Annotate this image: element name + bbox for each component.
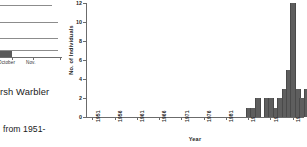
x-tick [226,117,227,120]
plot-area: 024681012 195119561961196619711976198119… [86,3,304,117]
x-tick-label: 1971 [184,110,190,122]
y-tick-label: 10 [70,19,82,25]
fragment-xtick-label-november: Nov. [26,60,36,65]
y-tick [83,98,86,99]
x-tick [248,117,249,120]
fragment-gridline [0,38,58,39]
fragment-body-text: from 1951- [3,124,46,134]
scanned-page: October Nov. rsh Warbler from 1951- No. … [0,0,307,147]
x-tick-label: 1976 [206,110,212,122]
x-tick-label: 1951 [95,110,101,122]
fragment-xtick-label-october: October [0,60,15,65]
y-tick [83,79,86,80]
left-document-fragment: October Nov. rsh Warbler from 1951- [0,0,66,147]
y-tick-label: 4 [70,76,82,82]
y-tick-label: 2 [70,95,82,101]
y-tick [83,117,86,118]
y-tick [83,60,86,61]
y-tick [83,22,86,23]
x-tick [137,117,138,120]
x-tick [270,117,271,120]
y-axis-line [86,3,87,118]
x-tick [92,117,93,120]
fragment-x-axis [0,57,62,58]
x-tick-label: 1981 [228,110,234,122]
y-tick-label: 6 [70,57,82,63]
fragment-gridline [0,5,52,6]
x-tick [204,117,205,120]
histogram-chart: No. of Individuals 024681012 19511956196… [66,0,307,147]
y-tick-label: 12 [70,0,82,6]
fragment-gridline [0,22,58,23]
x-tick-label: 1956 [117,110,123,122]
x-tick [181,117,182,120]
y-tick [83,41,86,42]
y-tick [83,3,86,4]
x-tick [293,117,294,120]
bar [304,89,307,118]
x-tick-label: 1966 [161,110,167,122]
y-tick-label: 0 [70,114,82,120]
x-tick-label: 1961 [139,110,145,122]
fragment-x-tick [60,57,61,60]
bar [255,98,261,117]
y-tick-label: 8 [70,38,82,44]
fragment-caption-text: rsh Warbler [0,86,49,97]
x-axis-label: Year [86,136,304,142]
x-tick [115,117,116,120]
